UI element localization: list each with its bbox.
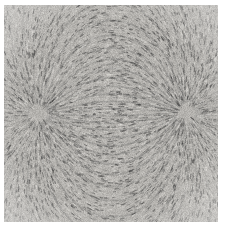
magnetic-field-figure — [0, 0, 225, 233]
filings-plate — [4, 5, 218, 222]
filings-canvas — [4, 5, 218, 222]
